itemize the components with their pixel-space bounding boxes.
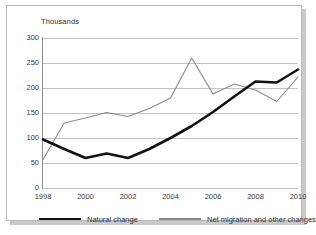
chart-card: Thousands 050100150200250300 19982000200…: [6, 5, 302, 221]
x-axis-tick-label: 2006: [196, 192, 230, 201]
chart-legend: Natural change Net migration and other c…: [7, 211, 303, 227]
legend-swatch-natural-change: [39, 218, 81, 221]
legend-item-net-migration: Net migration and other changes: [159, 211, 316, 227]
y-axis-tick-label: 50: [13, 158, 39, 167]
y-axis-tick-label: 250: [13, 58, 39, 67]
y-axis-tick-label: 300: [13, 33, 39, 42]
line-natural-change: [43, 70, 298, 159]
gridline: [43, 188, 298, 189]
y-axis-tick-label: 150: [13, 108, 39, 117]
legend-swatch-net-migration: [159, 218, 201, 219]
x-axis-tick-label: 2004: [154, 192, 188, 201]
x-axis-tick-label: 1998: [26, 192, 60, 201]
plot-area: [43, 38, 298, 188]
x-axis-tick-label: 2002: [111, 192, 145, 201]
legend-label-natural-change: Natural change: [87, 215, 138, 224]
series-lines: [43, 38, 298, 188]
y-axis-tick-label: 100: [13, 133, 39, 142]
x-axis-tick-label: 2008: [239, 192, 273, 201]
legend-item-natural-change: Natural change: [39, 211, 138, 227]
y-axis-tick-label: 200: [13, 83, 39, 92]
line-net-migration-and-other-changes: [43, 58, 298, 160]
y-axis-tick-label: 0: [13, 183, 39, 192]
legend-label-net-migration: Net migration and other changes: [207, 215, 316, 224]
x-axis-tick-label: 2000: [69, 192, 103, 201]
x-axis-tick-label: 2010: [281, 192, 315, 201]
y-axis-unit-label: Thousands: [41, 17, 79, 26]
